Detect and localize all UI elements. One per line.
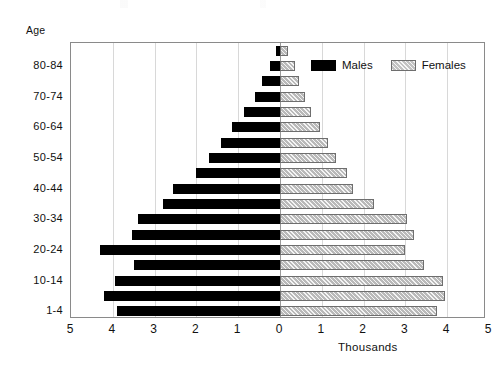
- bar-male: [138, 214, 280, 224]
- x-axis-tick-label: 0: [276, 322, 283, 336]
- bar-male: [232, 122, 280, 132]
- bar-female: [280, 122, 320, 132]
- bar-female: [280, 184, 353, 194]
- bar-male: [196, 168, 280, 178]
- x-axis-tick-label: 5: [485, 322, 492, 336]
- y-axis-tick-label: 30-34: [33, 212, 63, 224]
- y-axis-tick-labels: 80-8470-7460-6450-5440-4430-3420-2410-14…: [0, 42, 63, 318]
- bar-male: [163, 199, 280, 209]
- bar-female: [280, 76, 299, 86]
- bar-female: [280, 214, 407, 224]
- x-axis-title: Thousands: [338, 341, 398, 353]
- bar-female: [280, 153, 336, 163]
- bar-female: [280, 306, 437, 316]
- legend-label: Males: [342, 59, 373, 71]
- x-axis-tick-label: 3: [150, 322, 157, 336]
- bar-male: [262, 76, 280, 86]
- bar-row: [71, 184, 484, 194]
- bar-male: [117, 306, 280, 316]
- bar-row: [71, 214, 484, 224]
- bar-row: [71, 245, 484, 255]
- legend-entry: Males: [311, 59, 373, 71]
- bar-male: [100, 245, 280, 255]
- bar-row: [71, 291, 484, 301]
- bars-layer: [71, 43, 484, 317]
- bar-female: [280, 168, 347, 178]
- x-axis-tick-label: 2: [359, 322, 366, 336]
- y-axis-tick-label: 80-84: [33, 59, 63, 71]
- bar-row: [71, 92, 484, 102]
- bar-row: [71, 276, 484, 286]
- bar-row: [71, 153, 484, 163]
- bar-male: [115, 276, 280, 286]
- bar-male: [270, 61, 280, 71]
- bar-row: [71, 46, 484, 56]
- bar-female: [280, 92, 305, 102]
- bar-male: [173, 184, 280, 194]
- x-axis-tick-label: 4: [108, 322, 115, 336]
- x-axis-tick-label: 3: [401, 322, 408, 336]
- legend-label: Females: [422, 59, 466, 71]
- x-axis-tick-label: 4: [443, 322, 450, 336]
- bar-row: [71, 260, 484, 270]
- y-axis-tick-label: 10-14: [33, 274, 63, 286]
- chart-legend: MalesFemales: [311, 59, 466, 71]
- bar-female: [280, 199, 374, 209]
- population-pyramid-figure: Age 80-8470-7460-6450-5440-4430-3420-241…: [0, 0, 500, 374]
- bar-row: [71, 168, 484, 178]
- x-axis-tick-label: 5: [67, 322, 74, 336]
- bar-row: [71, 306, 484, 316]
- y-axis-tick-label: 40-44: [33, 182, 63, 194]
- bar-female: [280, 260, 424, 270]
- bar-row: [71, 138, 484, 148]
- bar-male: [132, 230, 280, 240]
- bar-male: [255, 92, 280, 102]
- legend-entry: Females: [391, 59, 466, 71]
- bar-female: [280, 245, 405, 255]
- bar-female: [280, 107, 311, 117]
- plot-area: [70, 42, 485, 318]
- x-axis-tick-label: 2: [192, 322, 199, 336]
- bar-female: [280, 276, 443, 286]
- y-axis-tick-label: 70-74: [33, 90, 63, 102]
- bar-female: [280, 230, 414, 240]
- bar-male: [104, 291, 280, 301]
- x-axis-tick-label: 1: [234, 322, 241, 336]
- y-axis-tick-label: 60-64: [33, 120, 63, 132]
- bar-row: [71, 107, 484, 117]
- bar-female: [280, 46, 288, 56]
- bar-row: [71, 230, 484, 240]
- y-axis-tick-label: 50-54: [33, 151, 63, 163]
- bar-row: [71, 122, 484, 132]
- y-axis-title: Age: [26, 24, 45, 36]
- bar-row: [71, 76, 484, 86]
- bar-male: [209, 153, 280, 163]
- hatched-gray-swatch: [391, 60, 416, 71]
- x-axis-tick-labels: 54321012345: [0, 322, 500, 342]
- y-axis-tick-label: 20-24: [33, 243, 63, 255]
- y-axis-tick-label: 1-4: [46, 304, 63, 316]
- solid-black-swatch: [311, 60, 336, 71]
- bar-female: [280, 291, 445, 301]
- bar-male: [244, 107, 280, 117]
- scan-noise-band: [0, 0, 500, 8]
- bar-female: [280, 61, 295, 71]
- x-axis-tick-label: 1: [317, 322, 324, 336]
- bar-row: [71, 199, 484, 209]
- bar-male: [221, 138, 280, 148]
- bar-male: [134, 260, 280, 270]
- bar-female: [280, 138, 328, 148]
